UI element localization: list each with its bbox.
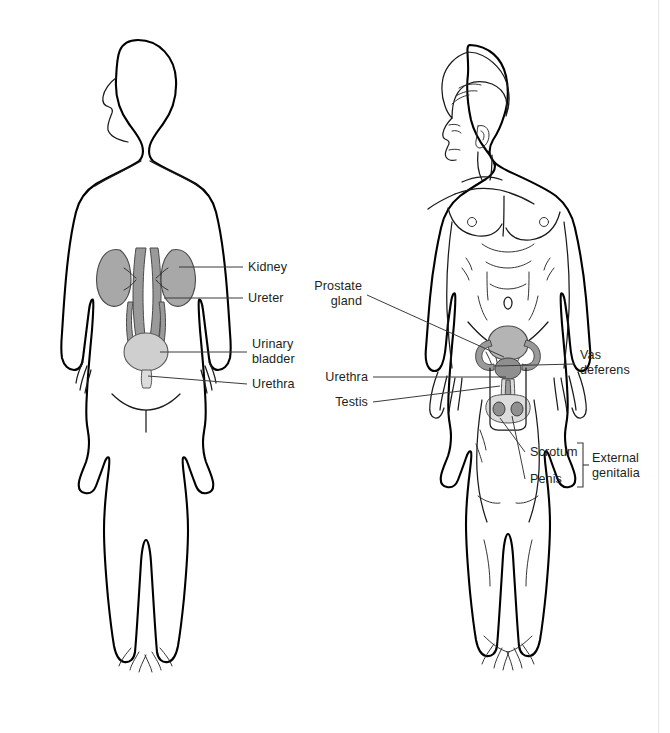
label-prostate-gland-line2: gland	[331, 294, 362, 308]
testis-right	[511, 402, 523, 416]
label-urinary-bladder-line1: Urinary	[252, 337, 294, 351]
scrotum-organ	[486, 395, 530, 424]
urethra-organ	[141, 370, 151, 388]
label-vas-deferens-line2: deferens	[580, 363, 630, 377]
anatomy-canvas: Kidney Ureter Urinary bladder Urethra	[0, 0, 670, 733]
label-scrotum: Scrotum	[530, 445, 578, 459]
label-urethra-2: Urethra	[325, 370, 368, 384]
label-vas-deferens-line1: Vas	[580, 348, 601, 362]
label-urinary-bladder-line2: bladder	[252, 352, 295, 366]
anatomy-figure: Kidney Ureter Urinary bladder Urethra	[0, 0, 670, 733]
label-testis: Testis	[335, 395, 368, 409]
label-urethra: Urethra	[252, 377, 295, 391]
prostate-organ	[495, 358, 521, 379]
kidney-left	[97, 249, 131, 306]
label-prostate-gland-line1: Prostate	[314, 279, 362, 293]
label-kidney: Kidney	[248, 260, 288, 274]
label-ureter: Ureter	[248, 291, 284, 305]
testis-left	[493, 402, 505, 416]
label-penis: Penis	[530, 472, 562, 486]
bladder-organ-2	[488, 326, 528, 360]
label-external-genitalia-line2: genitalia	[592, 466, 640, 480]
label-external-genitalia-line1: External	[592, 451, 639, 465]
